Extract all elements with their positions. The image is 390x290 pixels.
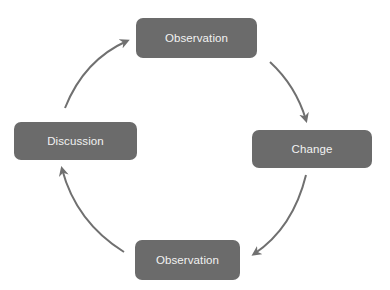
node-observation-top: Observation <box>136 18 257 58</box>
node-label: Discussion <box>47 135 104 147</box>
node-label: Change <box>292 143 333 155</box>
arrow-right-to-bottom-icon <box>254 175 306 254</box>
node-discussion: Discussion <box>14 122 137 160</box>
node-observation-bottom: Observation <box>135 240 240 280</box>
arrow-bottom-to-left-icon <box>62 169 124 252</box>
arrow-top-to-right-icon <box>270 62 306 120</box>
node-change: Change <box>252 130 372 168</box>
arrow-left-to-top-icon <box>65 41 127 108</box>
cycle-diagram: Observation Change Observation Discussio… <box>0 0 390 290</box>
node-label: Observation <box>165 32 228 44</box>
node-label: Observation <box>156 254 219 266</box>
